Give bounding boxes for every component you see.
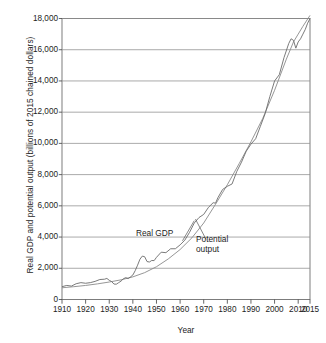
annotation-real-gdp: Real GDP	[136, 228, 173, 238]
y-tick-label: 0	[22, 296, 58, 304]
y-tick-label: 2,000	[22, 264, 58, 272]
y-tick-label: 18,000	[22, 15, 58, 23]
x-tick-marks	[62, 300, 310, 304]
y-tick-marks	[59, 19, 62, 300]
y-tick-label: 16,000	[22, 46, 58, 54]
y-tick-label: 4,000	[22, 233, 58, 241]
y-tick-label: 14,000	[22, 77, 58, 85]
x-axis-title: Year	[62, 325, 310, 335]
plot-frame	[62, 19, 310, 300]
y-tick-label: 10,000	[22, 139, 58, 147]
chart-figure: Real GDP and potential output (billions …	[0, 0, 326, 343]
x-tick-label: 2015	[296, 305, 324, 314]
y-tick-label: 8,000	[22, 171, 58, 179]
y-tick-label: 12,000	[22, 108, 58, 116]
annotation-potential-output: Potential output	[196, 234, 240, 254]
y-tick-label: 6,000	[22, 202, 58, 210]
y-axis-title: Real GDP and potential output (billions …	[25, 15, 35, 295]
